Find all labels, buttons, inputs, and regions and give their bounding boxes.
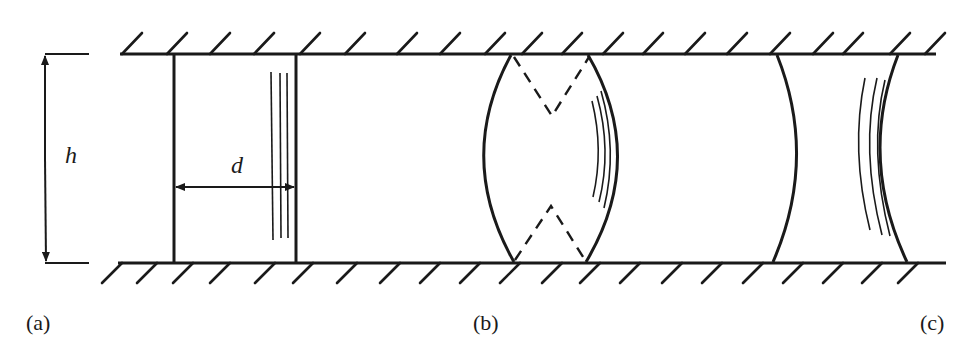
hatch-mark xyxy=(542,263,562,283)
hatch-mark xyxy=(397,33,417,54)
top-wall-hatching xyxy=(122,33,945,54)
hatch-mark xyxy=(102,263,122,283)
hatch-mark xyxy=(522,33,542,54)
hatch-mark xyxy=(813,33,833,54)
hatch-mark xyxy=(167,33,187,54)
hatch-mark xyxy=(770,33,790,54)
diagram-canvas: h d (a) (b) (c) xyxy=(0,0,974,349)
hatch-mark xyxy=(380,263,400,283)
bottom-wall xyxy=(102,263,946,283)
hatch-mark xyxy=(685,33,705,54)
hatch-mark xyxy=(743,263,763,283)
hatch-mark xyxy=(620,263,640,283)
hatch-mark xyxy=(173,263,193,283)
hatch-mark xyxy=(300,33,320,54)
hatch-mark xyxy=(662,263,682,283)
diagram-svg xyxy=(0,0,974,349)
hatch-mark xyxy=(293,263,313,283)
bottom-wall-hatching xyxy=(102,263,918,283)
hatch-mark xyxy=(727,33,747,54)
distance-label-d: d xyxy=(231,153,243,177)
hatch-mark xyxy=(823,263,843,283)
hatch-mark xyxy=(460,263,480,283)
hatch-mark xyxy=(254,33,274,54)
hatch-mark xyxy=(137,263,157,283)
hatch-mark xyxy=(898,263,918,283)
hatch-mark xyxy=(485,33,505,54)
hatch-mark xyxy=(843,33,863,54)
panel-label-c: (c) xyxy=(920,312,944,334)
top-wall xyxy=(120,33,945,54)
hatch-mark xyxy=(500,263,520,283)
hatch-mark xyxy=(702,263,722,283)
hatch-mark xyxy=(255,263,275,283)
hatch-mark xyxy=(783,263,803,283)
hatch-mark xyxy=(440,33,460,54)
hatch-mark xyxy=(210,263,230,283)
panel-b-convex-slug xyxy=(484,55,618,262)
hatch-mark xyxy=(345,33,365,54)
height-label-h: h xyxy=(65,143,77,167)
hatch-mark xyxy=(862,263,882,283)
panel-label-a: (a) xyxy=(26,312,50,334)
hatch-mark xyxy=(337,263,357,283)
hatch-mark xyxy=(580,263,600,283)
hatch-mark xyxy=(122,33,142,54)
hatch-mark xyxy=(420,263,440,283)
hatch-mark xyxy=(925,33,945,54)
hatch-mark xyxy=(890,33,910,54)
hatch-mark xyxy=(603,33,623,54)
hatch-mark xyxy=(643,33,663,54)
panel-c-concave-slug xyxy=(773,55,907,262)
panel-label-b: (b) xyxy=(473,312,499,334)
hatch-mark xyxy=(210,33,230,54)
hatch-mark xyxy=(562,33,582,54)
